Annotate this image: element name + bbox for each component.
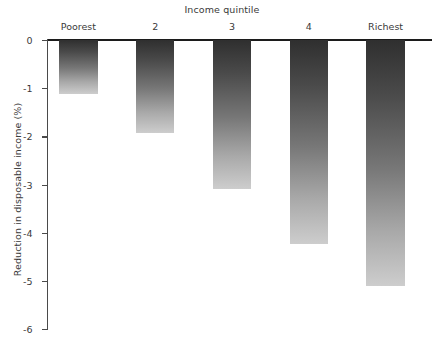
y-tick-4: -4: [42, 233, 48, 234]
chart-title: Income quintile: [0, 4, 444, 15]
y-tick-label-6: -6: [23, 324, 32, 335]
y-tick-6: -6: [42, 329, 48, 330]
y-tick-5: -5: [42, 281, 48, 282]
category-label-2: 3: [229, 21, 235, 32]
plot-area: 0 -1 -2 -3 -4 -5 -6 Poorest 2 3 4 Riches…: [48, 40, 432, 329]
y-tick-label-5: -5: [23, 276, 32, 287]
y-tick-label-4: -4: [23, 227, 32, 238]
y-tick-3: -3: [42, 185, 48, 186]
y-tick-label-2: -2: [23, 131, 32, 142]
category-label-4: Richest: [368, 21, 403, 32]
bar-4[interactable]: [366, 40, 405, 286]
bar-3[interactable]: [290, 40, 329, 244]
y-tick-2: -2: [42, 136, 48, 137]
y-tick-1: -1: [42, 88, 48, 89]
category-label-3: 4: [306, 21, 312, 32]
y-axis-label: Reduction in disposable income (%): [12, 90, 23, 290]
category-label-0: Poorest: [61, 21, 96, 32]
y-tick-label-0: 0: [26, 35, 32, 46]
bar-1[interactable]: [136, 40, 175, 133]
y-tick-label-3: -3: [23, 179, 32, 190]
category-label-1: 2: [152, 21, 158, 32]
bar-2[interactable]: [213, 40, 252, 189]
bar-0[interactable]: [59, 40, 98, 94]
bar-chart: Income quintile Reduction in disposable …: [0, 0, 444, 345]
y-tick-0: 0: [42, 40, 48, 41]
y-tick-label-1: -1: [23, 83, 32, 94]
